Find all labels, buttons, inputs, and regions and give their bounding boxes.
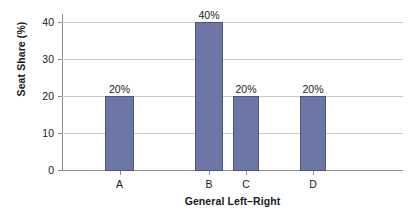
bar-value-label: 20%	[283, 83, 343, 95]
bar-chart: Seat Share (%) 010203040 ABCD 20%40%20%2…	[0, 0, 413, 217]
x-tick-mark	[313, 171, 314, 175]
y-tick-label: 20	[14, 91, 54, 101]
bar[interactable]	[233, 96, 259, 171]
gridline	[62, 59, 403, 60]
plot-area	[62, 22, 403, 170]
x-tick-mark	[120, 171, 121, 175]
x-tick-label: B	[189, 178, 229, 190]
bar-value-label: 40%	[179, 9, 239, 21]
y-tick-label: 30	[14, 54, 54, 64]
x-tick-label: D	[293, 178, 333, 190]
x-tick-label: C	[226, 178, 266, 190]
x-tick-mark	[246, 171, 247, 175]
bar[interactable]	[195, 22, 223, 171]
x-tick-mark	[209, 171, 210, 175]
bar-value-label: 20%	[90, 83, 150, 95]
x-axis-title: General Left–Right	[62, 195, 403, 207]
y-tick-label: 40	[14, 17, 54, 27]
y-tick-mark	[58, 170, 62, 171]
bar[interactable]	[105, 96, 134, 171]
y-tick-label: 0	[14, 165, 54, 175]
bar[interactable]	[300, 96, 326, 171]
bar-value-label: 20%	[216, 83, 276, 95]
y-tick-label: 10	[14, 128, 54, 138]
gridline	[62, 22, 403, 23]
x-tick-label: A	[100, 178, 140, 190]
